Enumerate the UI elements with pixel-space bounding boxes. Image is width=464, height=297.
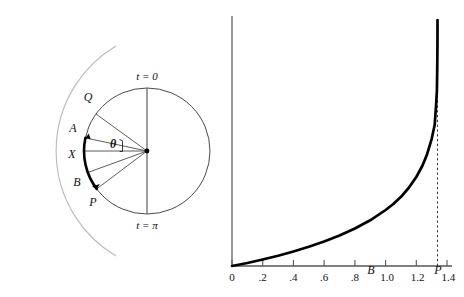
label-point-X: X — [67, 147, 76, 161]
plot-panel: 0 .2 .4 .6 .8 1.0 1.2 1.4 B P — [229, 16, 456, 283]
plot-curve — [232, 20, 438, 266]
x-tick-label-0.2: .2 — [259, 271, 267, 283]
label-point-A: A — [68, 121, 77, 135]
circle-center-dot — [145, 149, 150, 154]
x-tick-label-1.2: 1.2 — [411, 271, 425, 283]
ray-to-P — [97, 151, 147, 189]
x-axis-ticks — [232, 260, 447, 266]
label-t-zero: t = 0 — [136, 70, 158, 82]
label-point-P: P — [88, 195, 97, 209]
x-tick-label-0.8: .8 — [351, 271, 360, 283]
x-tick-label-0.4: .4 — [289, 271, 298, 283]
x-tick-label-1.0: 1.0 — [380, 271, 394, 283]
label-point-B: B — [73, 175, 81, 189]
x-tick-label-1.4: 1.4 — [442, 271, 456, 283]
label-point-Q: Q — [84, 90, 93, 104]
x-tick-label-0: 0 — [229, 271, 235, 283]
annotation-label-B: B — [367, 263, 375, 277]
bold-arc-A-to-P — [84, 138, 97, 189]
label-theta: θ — [110, 137, 117, 151]
x-axis-tick-labels: 0 .2 .4 .6 .8 1.0 1.2 1.4 — [229, 271, 456, 283]
ray-to-B — [88, 151, 147, 173]
x-tick-label-0.6: .6 — [320, 271, 329, 283]
circle-diagram-panel: Q A X B P θ t = 0 t = π — [56, 46, 210, 256]
figure-root: Q A X B P θ t = 0 t = π 0 .2 — [0, 0, 464, 297]
label-t-pi: t = π — [136, 219, 158, 231]
